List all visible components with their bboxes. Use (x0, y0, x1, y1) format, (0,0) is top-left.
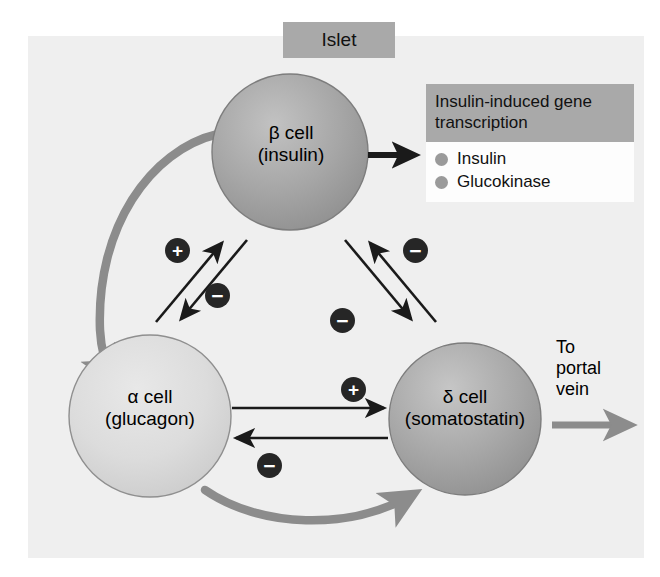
insulin-gene-legend: Insulin-induced gene transcription Insul… (426, 84, 634, 202)
legend-item-label: Insulin (457, 148, 506, 171)
portal-vein-label: To portal vein (556, 337, 648, 400)
legend-body: Insulin Glucokinase (426, 142, 634, 202)
legend-item-insulin: Insulin (435, 148, 625, 171)
legend-dot-icon (435, 176, 448, 189)
curved-arrow-alpha-to-delta (205, 490, 412, 520)
alpha-cell-label: α cell (glucagon) (64, 386, 236, 431)
legend-item-label: Glucokinase (457, 171, 551, 194)
delta-cell-label: δ cell (somatostatin) (386, 386, 544, 431)
sign-badge-delta-to-alpha: − (257, 453, 282, 478)
islet-title-box: Islet (283, 22, 395, 58)
sign-badge-alpha-to-beta: + (165, 238, 190, 263)
islet-signaling-figure: Islet β cell (insulin) α cell (glucagon)… (0, 0, 660, 577)
sign-badge-beta-to-delta: − (330, 308, 355, 333)
legend-dot-icon (435, 153, 448, 166)
islet-title-label: Islet (322, 29, 357, 51)
beta-cell-label: β cell (insulin) (213, 122, 369, 167)
sign-badge-alpha-to-delta: + (341, 377, 366, 402)
legend-header-title: Insulin-induced gene transcription (426, 84, 634, 142)
sign-badge-delta-to-beta: − (403, 238, 428, 263)
sign-badge-beta-to-alpha: − (205, 283, 230, 308)
legend-item-glucokinase: Glucokinase (435, 171, 625, 194)
